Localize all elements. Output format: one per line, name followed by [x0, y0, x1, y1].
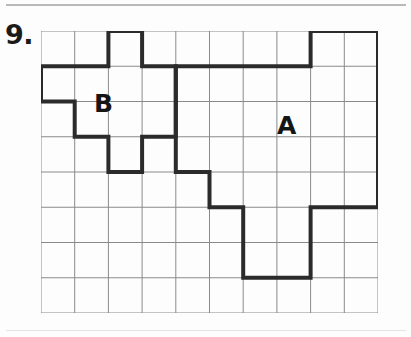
shape-label-b: B [94, 91, 113, 116]
worksheet-page: 9. A B [0, 0, 411, 337]
grid-container [41, 31, 378, 313]
problem-number: 9. [5, 21, 33, 48]
shape-grid [41, 31, 378, 313]
scan-top-rule [6, 4, 406, 6]
shape-label-a: A [277, 113, 296, 138]
scan-bottom-rule [6, 330, 406, 331]
